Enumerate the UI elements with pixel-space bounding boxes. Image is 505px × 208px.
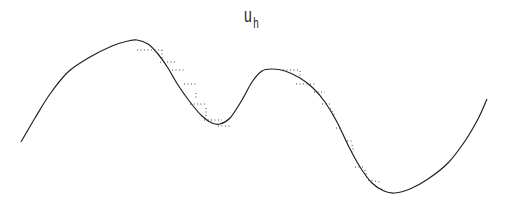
plot-area <box>0 0 505 208</box>
chart-title: uh <box>244 4 259 27</box>
solution-curve <box>21 40 487 193</box>
title-main: u <box>244 4 252 26</box>
title-subscript: h <box>253 15 258 31</box>
step-segment <box>352 145 354 152</box>
